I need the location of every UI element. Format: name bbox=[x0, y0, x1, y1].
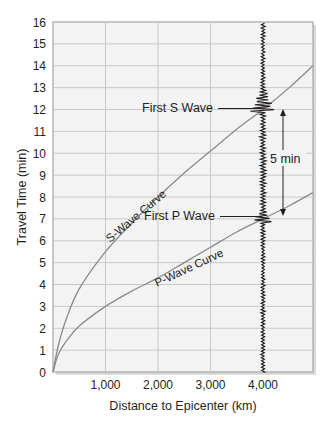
y-axis-ticks: 012345678910111213141516 bbox=[33, 16, 47, 380]
first-p-wave-label: First P Wave bbox=[144, 209, 215, 223]
y-tick-label: 7 bbox=[39, 212, 46, 226]
y-tick-label: 10 bbox=[33, 147, 47, 161]
x-axis-ticks: 1,0002,0003,0004,000 bbox=[90, 378, 278, 392]
y-tick-label: 0 bbox=[39, 366, 46, 380]
y-tick-label: 11 bbox=[34, 125, 47, 139]
x-tick-label: 3,000 bbox=[195, 378, 225, 392]
y-axis-title: Travel Time (min) bbox=[15, 149, 29, 246]
y-tick-label: 12 bbox=[33, 103, 47, 117]
y-tick-label: 4 bbox=[39, 278, 46, 292]
x-axis-title: Distance to Epicenter (km) bbox=[109, 399, 256, 413]
x-tick-label: 1,000 bbox=[90, 378, 120, 392]
y-tick-label: 8 bbox=[39, 191, 46, 205]
x-tick-label: 2,000 bbox=[143, 378, 173, 392]
y-tick-label: 13 bbox=[33, 81, 47, 95]
y-tick-label: 1 bbox=[39, 344, 46, 358]
y-tick-label: 2 bbox=[39, 322, 46, 336]
y-tick-label: 5 bbox=[39, 256, 46, 270]
first-s-wave-label: First S Wave bbox=[142, 101, 213, 115]
y-tick-label: 3 bbox=[39, 300, 46, 314]
interval-label: 5 min bbox=[270, 152, 301, 166]
y-tick-label: 16 bbox=[33, 16, 47, 30]
y-tick-label: 9 bbox=[39, 169, 46, 183]
y-tick-label: 14 bbox=[33, 59, 47, 73]
y-tick-label: 6 bbox=[39, 234, 46, 248]
travel-time-chart: 012345678910111213141516 1,0002,0003,000… bbox=[0, 0, 330, 428]
x-tick-label: 4,000 bbox=[248, 378, 278, 392]
y-tick-label: 15 bbox=[33, 37, 47, 51]
